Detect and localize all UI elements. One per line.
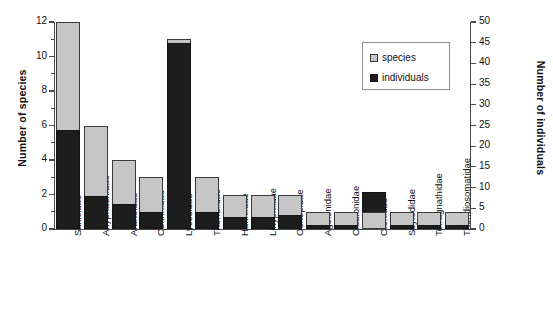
left-tick-label-0: 0	[25, 222, 47, 233]
bar-individuals[interactable]	[251, 217, 275, 229]
bar-individuals[interactable]	[112, 204, 136, 229]
bar-group[interactable]	[84, 22, 108, 229]
bar-group[interactable]	[278, 22, 302, 229]
right-tick-label-50: 50	[479, 15, 503, 26]
bar-group[interactable]	[139, 22, 163, 229]
right-tick-35	[471, 84, 476, 85]
bar-group[interactable]	[56, 22, 80, 229]
left-tick-label-4: 4	[25, 153, 47, 164]
right-tick-label-5: 5	[479, 201, 503, 212]
right-tick-20	[471, 146, 476, 147]
right-axis-title: Number of individuals	[535, 58, 547, 178]
right-tick-label-30: 30	[479, 98, 503, 109]
bar-individuals[interactable]	[195, 212, 219, 229]
bar-individuals[interactable]	[56, 130, 80, 229]
legend-label-individuals: individuals	[382, 72, 429, 83]
left-tick-label-12: 12	[25, 15, 47, 26]
bar-individuals[interactable]	[84, 196, 108, 229]
bar-individuals[interactable]	[139, 212, 163, 229]
bar-species[interactable]	[362, 212, 386, 229]
bar-individuals[interactable]	[390, 225, 414, 229]
right-tick-25	[471, 125, 476, 126]
bar-individuals[interactable]	[445, 225, 469, 229]
right-tick-label-15: 15	[479, 160, 503, 171]
right-tick-50	[471, 21, 476, 22]
right-tick-45	[471, 42, 476, 43]
legend-label-species: species	[382, 52, 416, 63]
right-tick-label-45: 45	[479, 36, 503, 47]
legend-swatch-individuals-icon	[370, 74, 378, 82]
bar-group[interactable]	[223, 22, 247, 229]
spider-family-bar-chart: Number of species Number of individuals …	[0, 0, 553, 336]
bar-group[interactable]	[251, 22, 275, 229]
bar-individuals[interactable]	[223, 217, 247, 229]
left-tick-label-2: 2	[25, 188, 47, 199]
right-tick-label-35: 35	[479, 77, 503, 88]
bar-group[interactable]	[167, 22, 191, 229]
bar-group[interactable]	[195, 22, 219, 229]
right-tick-label-40: 40	[479, 56, 503, 67]
bar-individuals[interactable]	[167, 43, 191, 229]
bar-individuals[interactable]	[278, 215, 302, 229]
legend-item-species: species	[370, 52, 416, 63]
chart-legend: species individuals	[362, 42, 450, 90]
bar-individuals[interactable]	[417, 225, 441, 229]
bar-group[interactable]	[112, 22, 136, 229]
legend-swatch-species-icon	[370, 54, 378, 62]
left-tick-label-6: 6	[25, 119, 47, 130]
left-tick-label-10: 10	[25, 50, 47, 61]
right-tick-40	[471, 63, 476, 64]
right-tick-label-10: 10	[479, 181, 503, 192]
right-tick-label-25: 25	[479, 119, 503, 130]
legend-item-individuals: individuals	[370, 72, 429, 83]
bar-individuals[interactable]	[334, 225, 358, 229]
right-tick-label-20: 20	[479, 139, 503, 150]
left-tick-label-8: 8	[25, 84, 47, 95]
right-tick-30	[471, 104, 476, 105]
bar-individuals[interactable]	[306, 225, 330, 229]
right-tick-label-0: 0	[479, 222, 503, 233]
